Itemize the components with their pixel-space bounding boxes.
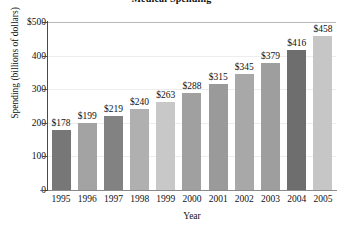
chart-title: Medical Spending [0,0,343,4]
bar-value-label: $458 [313,24,332,34]
bar-value-label: $199 [78,111,97,121]
bar-value-label: $416 [287,38,306,48]
x-axis-tick-label: 1996 [78,194,97,204]
bar-group[interactable]: $458 [310,22,336,190]
bar-value-label: $288 [182,81,201,91]
bar-series: $178$199$219$240$263$288$315$345$379$416… [48,22,336,190]
bar[interactable] [78,123,97,190]
bar[interactable] [104,116,123,190]
bar-group[interactable]: $379 [257,22,283,190]
x-axis-tick-label: 1999 [156,194,175,204]
bar-value-label: $240 [130,97,149,107]
bar-group[interactable]: $219 [100,22,126,190]
bar-value-label: $178 [52,118,71,128]
bar-group[interactable]: $263 [153,22,179,190]
bar-group[interactable]: $416 [284,22,310,190]
bar-value-label: $263 [156,90,175,100]
bar[interactable] [52,130,71,190]
x-axis-tick-label: 2005 [313,194,332,204]
bar-chart: Medical Spending Spending (billions of d… [0,0,343,232]
bar[interactable] [235,74,254,190]
x-axis-tick-label: 2002 [235,194,254,204]
bar-group[interactable]: $199 [74,22,100,190]
bar-value-label: $315 [209,72,228,82]
bar-value-label: $379 [261,51,280,61]
bar-group[interactable]: $345 [231,22,257,190]
x-axis-line [40,190,337,191]
bar[interactable] [156,102,175,190]
bar[interactable] [130,109,149,190]
y-axis-title: Spending (billions of dollars) [10,0,20,138]
bar[interactable] [209,84,228,190]
bar-group[interactable]: $315 [205,22,231,190]
x-axis-tick-label: 2001 [209,194,228,204]
bar-group[interactable]: $288 [179,22,205,190]
x-axis-tick-label: 1997 [104,194,123,204]
bar[interactable] [182,93,201,190]
bar-group[interactable]: $240 [127,22,153,190]
bar-group[interactable]: $178 [48,22,74,190]
x-axis-tick-label: 1995 [52,194,71,204]
bar[interactable] [287,50,306,190]
bar-value-label: $219 [104,104,123,114]
bar[interactable] [313,36,332,190]
x-axis-tick-label: 2003 [261,194,280,204]
y-axis-tick-mark [42,190,48,191]
x-axis-tick-label: 1998 [130,194,149,204]
x-axis-title: Year [48,211,336,221]
x-axis-tick-label: 2004 [287,194,306,204]
x-axis-tick-label: 2000 [183,194,202,204]
plot-area: $178$199$219$240$263$288$315$345$379$416… [48,22,336,190]
bar-value-label: $345 [235,62,254,72]
bar[interactable] [261,63,280,190]
